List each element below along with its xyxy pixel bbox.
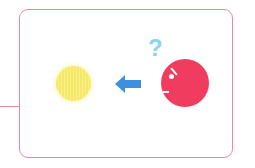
- yellow-ball: [56, 66, 91, 101]
- arrow-left-icon: [115, 75, 141, 93]
- question-mark: ?: [148, 36, 163, 60]
- connector-line: [0, 106, 20, 107]
- mouth: [161, 91, 169, 93]
- red-ball-character: [161, 59, 209, 107]
- eye: [169, 74, 174, 79]
